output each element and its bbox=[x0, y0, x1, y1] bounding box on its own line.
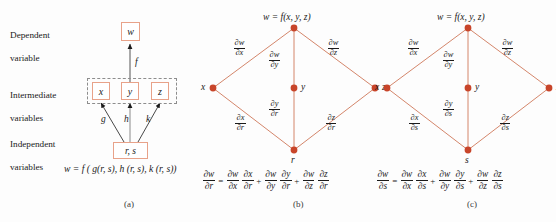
frac-den: ∂s bbox=[409, 123, 419, 133]
node-w bbox=[465, 25, 472, 32]
node-box-rs: r, s bbox=[113, 142, 148, 159]
panel-a-connectors bbox=[0, 0, 190, 222]
edge-label-g: g bbox=[101, 114, 106, 124]
panel-b-graph-edges bbox=[190, 0, 372, 180]
frac-den: ∂x bbox=[408, 48, 419, 58]
panel-b-equation: ∂w ∂r = ∂w ∂x ∂x ∂r + ∂w ∂y ∂y ∂r bbox=[202, 170, 329, 191]
eq-term1-b: ∂x ∂r bbox=[242, 170, 254, 191]
frac-den: ∂r bbox=[280, 180, 291, 191]
eq-lhs: ∂w ∂r bbox=[202, 170, 216, 191]
node-x bbox=[210, 85, 217, 92]
plus-sign-1: + bbox=[428, 176, 438, 186]
node-label-y: y bbox=[475, 82, 479, 92]
node-box-x: x bbox=[92, 82, 110, 100]
plus-sign-1: + bbox=[254, 176, 264, 186]
frac-den: ∂y bbox=[265, 180, 277, 191]
node-box-y: y bbox=[121, 82, 139, 100]
edge-label-dw-dy: ∂w ∂y bbox=[442, 50, 455, 70]
eq-term3-a: ∂w ∂z bbox=[302, 170, 316, 191]
node-box-y-label: y bbox=[128, 86, 132, 97]
frac-den: ∂r bbox=[242, 180, 253, 191]
eq-term3-b: ∂z ∂r bbox=[318, 170, 329, 191]
edge-label-dw-dz: ∂w ∂z bbox=[327, 38, 340, 58]
node-y bbox=[465, 85, 472, 92]
frac-den: ∂y bbox=[269, 60, 280, 70]
frac-num: ∂w bbox=[501, 39, 514, 48]
edge-label-dw-dz: ∂w ∂z bbox=[501, 38, 514, 58]
chain-rule-tree-diagram-figure: Dependent variable Intermediate variable… bbox=[0, 0, 556, 222]
frac-num: ∂w bbox=[233, 39, 246, 48]
edge-label-dz-dr: ∂z ∂r bbox=[326, 113, 336, 133]
eq-term2-a: ∂w ∂y bbox=[264, 170, 278, 191]
frac-den: ∂z bbox=[477, 180, 488, 191]
node-w bbox=[291, 25, 298, 32]
frac-num: ∂w bbox=[442, 51, 455, 60]
frac-num: ∂z bbox=[492, 170, 503, 180]
frac-num: ∂x bbox=[235, 114, 246, 123]
panel-a: Dependent variable Intermediate variable… bbox=[0, 0, 190, 222]
node-r bbox=[291, 147, 298, 154]
frac-num: ∂w bbox=[438, 170, 452, 180]
eq-term3-a: ∂w ∂z bbox=[476, 170, 490, 191]
eq-term2-b: ∂y ∂r bbox=[280, 170, 292, 191]
edge-x-s bbox=[387, 88, 468, 150]
frac-num: ∂w bbox=[476, 170, 490, 180]
edge-label-dw-dy: ∂w ∂y bbox=[268, 50, 281, 70]
frac-num: ∂w bbox=[327, 39, 340, 48]
node-y bbox=[291, 85, 298, 92]
frac-den: ∂z bbox=[328, 48, 338, 58]
frac-num: ∂y bbox=[280, 170, 292, 180]
panel-c-equation: ∂w ∂s = ∂w ∂x ∂x ∂s + ∂w ∂y ∂y ∂s bbox=[376, 170, 503, 191]
eq-term2-a: ∂w ∂y bbox=[438, 170, 452, 191]
frac-den: ∂x bbox=[227, 180, 239, 191]
frac-den: ∂r bbox=[203, 180, 214, 191]
eq-term1-b: ∂x ∂s bbox=[416, 170, 428, 191]
panel-a-caption: (a) bbox=[124, 199, 134, 209]
frac-num: ∂w bbox=[264, 170, 278, 180]
node-label-r: r bbox=[291, 155, 295, 165]
node-box-x-label: x bbox=[99, 86, 103, 97]
node-label-x: x bbox=[201, 82, 205, 92]
eq-term3-b: ∂z ∂s bbox=[492, 170, 503, 191]
node-box-w: w bbox=[121, 22, 140, 41]
eq-sign: = bbox=[390, 176, 400, 186]
node-s bbox=[465, 147, 472, 154]
panel-b-caption: (b) bbox=[293, 199, 304, 209]
panel-c-graph-edges bbox=[372, 0, 556, 180]
plus-sign-2: + bbox=[292, 176, 302, 186]
eq-term2-b: ∂y ∂s bbox=[454, 170, 466, 191]
node-z bbox=[546, 85, 553, 92]
node-label-x: x bbox=[375, 82, 379, 92]
frac-num: ∂w bbox=[407, 39, 420, 48]
frac-den: ∂x bbox=[234, 48, 245, 58]
frac-den: ∂z bbox=[303, 180, 314, 191]
panel-c: w = f(x, y, z) x y z s ∂w ∂x ∂w ∂y ∂w ∂z… bbox=[372, 0, 556, 222]
frac-num: ∂x bbox=[242, 170, 254, 180]
edge-label-dx-ds: ∂x ∂s bbox=[409, 113, 420, 133]
frac-num: ∂z bbox=[500, 114, 510, 123]
edge-label-dy-dr: ∂y ∂r bbox=[269, 99, 280, 119]
frac-den: ∂s bbox=[416, 180, 427, 191]
node-box-w-label: w bbox=[127, 26, 134, 37]
frac-num: ∂w bbox=[376, 170, 390, 180]
node-box-z: z bbox=[151, 82, 169, 100]
panel-a-equation: w = f ( g(r, s), h (r, s), k (r, s)) bbox=[64, 163, 177, 174]
node-label-w: w = f(x, y, z) bbox=[437, 12, 485, 22]
edge-x-r bbox=[213, 88, 294, 150]
frac-num: ∂w bbox=[202, 170, 216, 180]
node-x bbox=[384, 85, 391, 92]
frac-num: ∂y bbox=[269, 100, 280, 109]
eq-term1-a: ∂w ∂x bbox=[226, 170, 240, 191]
node-label-w: w = f(x, y, z) bbox=[263, 12, 311, 22]
edge-w-x bbox=[213, 28, 294, 88]
frac-num: ∂w bbox=[268, 51, 281, 60]
edge-label-h: h bbox=[124, 114, 129, 124]
edge-label-k: k bbox=[146, 114, 150, 124]
panel-b: w = f(x, y, z) x y z r ∂w ∂x ∂w ∂y ∂w ∂z bbox=[190, 0, 372, 222]
eq-lhs: ∂w ∂s bbox=[376, 170, 390, 191]
frac-den: ∂y bbox=[439, 180, 451, 191]
frac-num: ∂y bbox=[454, 170, 466, 180]
frac-den: ∂z bbox=[502, 48, 512, 58]
node-box-z-label: z bbox=[158, 86, 162, 97]
frac-num: ∂w bbox=[302, 170, 316, 180]
